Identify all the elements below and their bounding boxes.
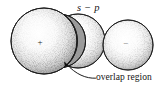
left-sphere-plus-sign: + <box>38 38 43 47</box>
overlap-region-label: overlap region <box>96 73 152 83</box>
right-sphere-minus-sign: − <box>123 39 128 48</box>
orbital-overlap-label: s − p <box>77 3 100 14</box>
overlap-region-figure: s − p overlap region + − <box>0 0 163 90</box>
